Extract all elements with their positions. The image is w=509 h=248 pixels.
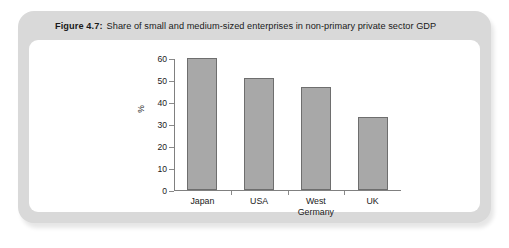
x-tick-2 <box>288 191 289 195</box>
x-label-usa: USA <box>250 196 268 207</box>
x-label-japan: Japan <box>190 196 214 207</box>
figure-number-label: Figure 4.7: <box>55 21 103 31</box>
y-tick-60 <box>169 59 174 60</box>
x-label-line: UK <box>367 196 379 207</box>
x-label-line: Japan <box>190 196 214 207</box>
x-tick-3 <box>344 191 345 195</box>
plot-area: 0102030405060 JapanUSAWestGermanyUK <box>174 59 401 191</box>
figure-screenshot: Figure 4.7: Share of small and medium-si… <box>0 0 509 248</box>
x-label-uk: UK <box>367 196 379 207</box>
x-label-line: USA <box>250 196 268 207</box>
y-tick-label-10: 10 <box>157 164 167 174</box>
figure-frame: Figure 4.7: Share of small and medium-si… <box>18 11 491 223</box>
x-label-west-germany: WestGermany <box>298 196 334 217</box>
y-axis-label: % <box>136 105 146 113</box>
bar-chart: % 0102030405060 JapanUSAWestGermanyUK <box>29 40 480 212</box>
x-tick-1 <box>231 191 232 195</box>
y-tick-label-30: 30 <box>157 120 167 130</box>
y-tick-label-0: 0 <box>162 186 167 196</box>
y-tick-30 <box>169 125 174 126</box>
y-tick-10 <box>169 169 174 170</box>
figure-panel: % 0102030405060 JapanUSAWestGermanyUK <box>29 40 480 212</box>
y-tick-0 <box>169 191 174 192</box>
y-tick-label-20: 20 <box>157 142 167 152</box>
bar-uk <box>358 117 388 190</box>
y-tick-50 <box>169 81 174 82</box>
y-tick-label-50: 50 <box>157 76 167 86</box>
y-tick-label-60: 60 <box>157 54 167 64</box>
x-label-line: West <box>298 196 334 207</box>
bar-west-germany <box>301 87 331 190</box>
y-tick-20 <box>169 147 174 148</box>
x-label-line: Germany <box>298 207 334 218</box>
y-tick-label-40: 40 <box>157 98 167 108</box>
y-axis-line <box>174 59 175 191</box>
figure-caption: Figure 4.7: Share of small and medium-si… <box>18 11 491 40</box>
y-tick-40 <box>169 103 174 104</box>
bar-usa <box>244 78 274 190</box>
bar-japan <box>187 58 217 190</box>
figure-caption-text: Share of small and medium-sized enterpri… <box>107 21 437 31</box>
